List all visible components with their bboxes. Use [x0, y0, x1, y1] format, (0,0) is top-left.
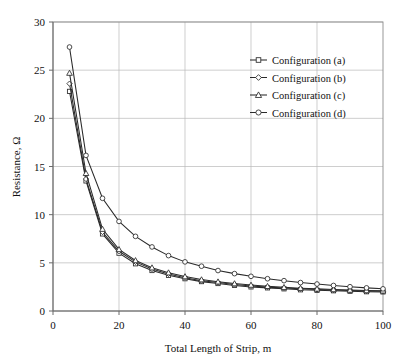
chart-legend: Configuration (a)Configuration (b)Config…	[250, 55, 346, 120]
legend-label-4: Configuration (d)	[272, 108, 346, 120]
x-tick-label: 100	[375, 319, 392, 331]
marker-circle-4	[67, 45, 72, 50]
resistance-vs-length-chart: 051015202530 020406080100 Resistance, Ω …	[0, 0, 409, 364]
y-tick-label: 10	[34, 209, 46, 221]
x-tick-labels: 020406080100	[50, 319, 392, 331]
series-3	[67, 70, 386, 293]
y-axis	[49, 22, 53, 311]
marker-circle-4	[133, 234, 138, 239]
marker-circle-4	[381, 286, 386, 291]
y-tick-label: 25	[34, 64, 46, 76]
legend-label-2: Configuration (b)	[272, 73, 346, 85]
x-tick-label: 60	[246, 319, 258, 331]
marker-circle-4	[117, 219, 122, 224]
marker-square-legend-1	[256, 58, 261, 63]
legend-item-1[interactable]: Configuration (a)	[250, 55, 346, 67]
y-tick-labels: 051015202530	[34, 16, 46, 317]
x-tick-label: 20	[114, 319, 126, 331]
x-tick-label: 80	[312, 319, 324, 331]
marker-circle-4	[84, 153, 89, 158]
legend-item-3[interactable]: Configuration (c)	[250, 90, 346, 102]
marker-circle-4	[348, 284, 353, 289]
chart-container: 051015202530 020406080100 Resistance, Ω …	[0, 0, 409, 364]
marker-circle-4	[315, 282, 320, 287]
series-line-3	[70, 73, 384, 291]
y-axis-title: Resistance, Ω	[10, 137, 22, 198]
marker-diamond-legend-2	[256, 75, 262, 81]
marker-circle-4	[150, 245, 155, 250]
marker-circle-legend-4	[256, 110, 261, 115]
marker-circle-4	[265, 276, 270, 281]
series-1	[67, 89, 385, 294]
y-tick-label: 5	[40, 257, 46, 269]
y-tick-label: 0	[40, 305, 46, 317]
marker-circle-4	[166, 253, 171, 258]
x-axis-title: Total Length of Strip, m	[165, 342, 272, 354]
x-tick-label: 0	[50, 319, 56, 331]
y-tick-label: 15	[34, 161, 46, 173]
x-tick-label: 40	[180, 319, 192, 331]
marker-circle-4	[199, 264, 204, 269]
legend-label-1: Configuration (a)	[272, 55, 346, 67]
marker-circle-4	[298, 280, 303, 285]
legend-item-4[interactable]: Configuration (d)	[250, 108, 346, 120]
x-axis	[53, 311, 383, 315]
y-tick-label: 30	[34, 16, 46, 28]
legend-item-2[interactable]: Configuration (b)	[250, 73, 346, 85]
marker-circle-4	[331, 283, 336, 288]
marker-circle-4	[364, 286, 369, 291]
y-tick-label: 20	[34, 112, 46, 124]
series-line-1	[70, 91, 384, 292]
marker-triangle-3	[67, 70, 73, 75]
marker-circle-4	[232, 271, 237, 276]
marker-circle-4	[100, 196, 105, 201]
marker-circle-4	[216, 268, 221, 273]
marker-circle-4	[282, 278, 287, 283]
marker-circle-4	[249, 274, 254, 279]
marker-triangle-3	[149, 265, 155, 270]
legend-label-3: Configuration (c)	[272, 90, 346, 102]
marker-circle-4	[183, 260, 188, 265]
